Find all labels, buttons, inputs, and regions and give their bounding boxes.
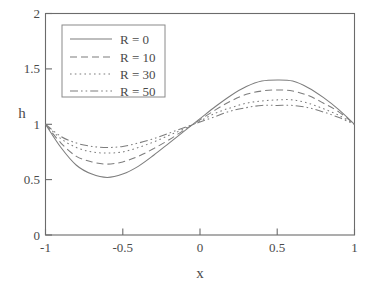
x-axis-title: x — [196, 265, 204, 281]
y-tick-label: 2 — [34, 6, 41, 21]
y-tick-labels: 2 1.5 1 0.5 0 — [24, 6, 40, 243]
legend-label-r-50: R = 50 — [120, 84, 156, 99]
x-tick-label: 0.5 — [269, 240, 285, 255]
legend-label-r-30: R = 30 — [120, 67, 156, 82]
y-axis-title: h — [18, 105, 26, 121]
y-tick-label: 0.5 — [24, 172, 40, 187]
line-chart: 2 1.5 1 0.5 0 -1 -0.5 0 0.5 1 h x R — [0, 0, 367, 287]
x-tick-label: 1 — [351, 240, 358, 255]
legend-label-r-0: R = 0 — [120, 32, 149, 47]
legend-label-r-10: R = 10 — [120, 50, 156, 65]
x-tick-label: 0 — [197, 240, 204, 255]
legend: R = 0 R = 10 R = 30 R = 50 — [62, 25, 165, 99]
x-tick-label: -0.5 — [113, 240, 134, 255]
chart-figure: 2 1.5 1 0.5 0 -1 -0.5 0 0.5 1 h x R — [0, 0, 367, 287]
y-tick-label: 1.5 — [24, 61, 40, 76]
curve-r-10 — [46, 90, 355, 164]
y-axis-ticks — [46, 14, 53, 236]
x-tick-label: -1 — [40, 240, 51, 255]
x-axis-ticks — [46, 229, 355, 236]
y-tick-label: 0 — [34, 228, 41, 243]
curve-r-50 — [46, 105, 355, 147]
y-tick-label: 1 — [34, 117, 41, 132]
x-tick-labels: -1 -0.5 0 0.5 1 — [40, 240, 358, 255]
